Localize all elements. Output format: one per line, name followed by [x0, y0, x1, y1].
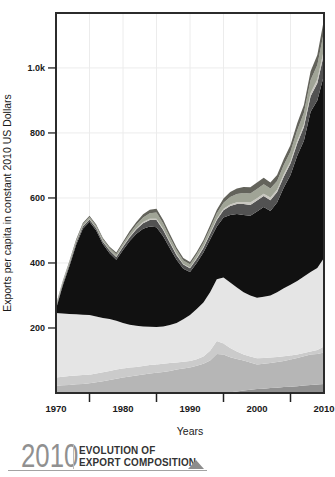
y-tick-label: 600: [30, 193, 45, 203]
x-tick-label: 2010: [313, 403, 334, 414]
x-tick-label: 1980: [112, 403, 133, 414]
x-tick-label: 1990: [179, 403, 200, 414]
y-tick-label: 800: [30, 128, 45, 138]
footer-rule: [8, 470, 207, 471]
footer-title: EVOLUTION OF EXPORT COMPOSITION: [79, 445, 196, 468]
y-tick-label: 400: [30, 258, 45, 268]
footer-title-line1: EVOLUTION OF: [79, 445, 196, 457]
footer-divider: [73, 444, 74, 469]
y-axis-title: Exports per capita in constant 2010 US D…: [1, 94, 13, 312]
export-composition-chart-page: 1.0k800600400200 19701980199020002010 Ex…: [0, 0, 335, 477]
x-axis-title: Years: [177, 425, 203, 437]
x-tick-label: 2000: [246, 403, 267, 414]
x-tick-label: 1970: [45, 403, 66, 414]
y-tick-label: 1.0k: [27, 63, 46, 73]
x-axis-ticks: 19701980199020002010: [45, 393, 334, 414]
footer-title-line2: EXPORT COMPOSITION: [79, 457, 196, 469]
footer-year: 2010: [21, 442, 78, 470]
y-axis-ticks: 1.0k800600400200: [27, 63, 56, 333]
stacked-area-chart: 1.0k800600400200 19701980199020002010 Ex…: [0, 0, 335, 441]
y-tick-label: 200: [30, 323, 45, 333]
expand-up-triangle-icon[interactable]: [188, 460, 204, 469]
